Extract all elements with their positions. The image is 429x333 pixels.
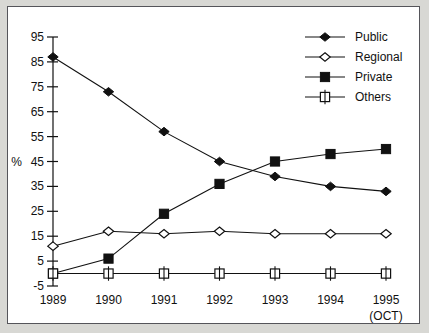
y-axis-title: %: [11, 155, 22, 169]
data-point-marker: [103, 227, 113, 236]
data-point-marker: [320, 33, 330, 42]
legend-label-public: Public: [355, 30, 388, 44]
data-point-marker: [48, 242, 58, 251]
y-axis-tick-label: 95: [31, 30, 45, 44]
y-axis-tick-label: 85: [31, 55, 45, 69]
x-axis-tick-label: 1993: [262, 293, 289, 307]
x-axis-tick-label: 1995: [373, 293, 400, 307]
chart-frame: 9585756555453525155-5%198919901991199219…: [7, 6, 420, 324]
y-axis-tick-label: 75: [31, 80, 45, 94]
data-point-marker: [381, 144, 390, 153]
data-point-marker: [320, 53, 330, 62]
legend-label-private: Private: [355, 70, 393, 84]
data-point-marker: [214, 227, 224, 236]
x-axis-tick-label: 1989: [40, 293, 67, 307]
chart-surface: 9585756555453525155-5%198919901991199219…: [8, 7, 419, 323]
data-point-marker: [214, 157, 224, 166]
y-axis-tick-label: 15: [31, 229, 45, 243]
data-point-marker: [104, 254, 113, 263]
data-point-marker: [270, 157, 279, 166]
data-point-marker: [381, 187, 391, 196]
y-axis-tick-label: 35: [31, 179, 45, 193]
y-axis-tick-label: 45: [31, 155, 45, 169]
data-point-marker: [320, 72, 329, 81]
data-point-marker: [270, 172, 280, 181]
data-point-marker: [159, 209, 168, 218]
legend-label-regional: Regional: [355, 50, 402, 64]
x-axis-tick-label: 1991: [151, 293, 178, 307]
data-point-marker: [48, 53, 58, 62]
y-axis-tick-label: 5: [37, 254, 44, 268]
y-axis-tick-label: 65: [31, 105, 45, 119]
x-axis-tick-label: 1990: [95, 293, 122, 307]
data-point-marker: [270, 229, 280, 238]
legend-label-others: Others: [355, 90, 391, 104]
data-point-marker: [215, 179, 224, 188]
data-point-marker: [326, 149, 335, 158]
data-point-marker: [325, 229, 335, 238]
line-chart: 9585756555453525155-5%198919901991199219…: [8, 7, 419, 323]
y-axis-tick-label: 55: [31, 130, 45, 144]
data-point-marker: [325, 182, 335, 191]
x-axis-tick-label: 1994: [317, 293, 344, 307]
x-axis-note: (OCT): [369, 309, 402, 323]
y-axis-tick-label: 25: [31, 204, 45, 218]
data-point-marker: [381, 229, 391, 238]
x-axis-tick-label: 1992: [206, 293, 233, 307]
series-line-private: [53, 149, 386, 273]
y-axis-tick-label: -5: [33, 279, 44, 293]
data-point-marker: [159, 229, 169, 238]
